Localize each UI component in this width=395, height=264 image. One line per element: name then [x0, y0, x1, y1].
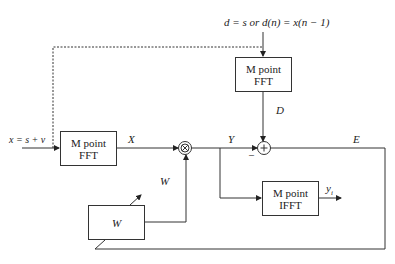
weights-label: W	[112, 217, 121, 229]
input-signal-label: x = s + v	[9, 134, 45, 145]
signal-X-label: X	[128, 133, 135, 145]
fft-desired-block: M point FFT	[235, 57, 292, 92]
fft-input-line2: FFT	[79, 149, 98, 161]
adaptive-filter-diagram: M point FFT M point FFT M point IFFT W d…	[0, 0, 395, 264]
ifft-output-line2: IFFT	[279, 199, 302, 211]
minus-sign: –	[249, 149, 254, 160]
fft-input-block: M point FFT	[60, 131, 117, 166]
signal-D-label: D	[276, 104, 284, 116]
fft-desired-line1: M point	[246, 63, 281, 75]
desired-input-label: d = s or d(n) = x(n − 1)	[224, 16, 329, 28]
output-y-label: yi	[326, 182, 333, 197]
fft-input-line1: M point	[71, 137, 106, 149]
signal-Y-label: Y	[228, 133, 234, 145]
ifft-output-block: M point IFFT	[262, 181, 319, 216]
output-y-subscript: i	[331, 189, 333, 197]
fft-desired-line2: FFT	[254, 75, 273, 87]
signal-E-label: E	[353, 133, 360, 145]
signal-W-label: W	[160, 175, 169, 187]
ifft-output-line1: M point	[273, 187, 308, 199]
weights-block: W	[88, 205, 145, 240]
